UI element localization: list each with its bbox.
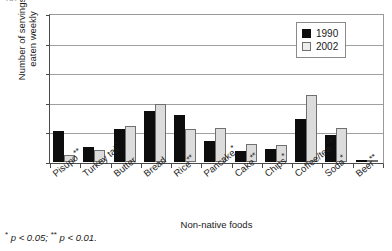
x-tick-mark-4 bbox=[171, 164, 172, 168]
bar-group-rice bbox=[172, 16, 202, 162]
legend-label-2002: 2002 bbox=[316, 41, 338, 52]
bar-group-chips bbox=[263, 16, 293, 162]
bar-group-pisupo bbox=[51, 16, 81, 162]
x-tick-mark-5 bbox=[201, 164, 202, 168]
x-axis-title: Non-native foods bbox=[49, 219, 384, 230]
x-tick-mark-1 bbox=[80, 164, 81, 168]
y-axis-title-line-1: Number of servings bbox=[16, 0, 27, 97]
bar-group-bread bbox=[142, 16, 172, 162]
y-tick-mark-25 bbox=[46, 15, 50, 16]
bar-group-turkey-tail bbox=[81, 16, 111, 162]
bar-group-beer bbox=[354, 16, 384, 162]
footnote-text-two: p < 0.01. bbox=[57, 232, 97, 243]
legend-item-2002: 2002 bbox=[302, 40, 338, 53]
x-tick-mark-6 bbox=[232, 164, 233, 168]
bar-1990-rice bbox=[174, 115, 185, 162]
x-tick-mark-3 bbox=[141, 164, 142, 168]
x-tick-mark-0 bbox=[50, 164, 51, 168]
y-tick-mark-20 bbox=[46, 45, 50, 46]
x-tick-mark-8 bbox=[292, 164, 293, 168]
bar-1990-bread bbox=[144, 111, 155, 162]
y-axis-title-line-2: eaten weekly bbox=[27, 0, 38, 97]
legend-swatch-1990 bbox=[302, 29, 311, 38]
y-axis-title: Number of servings eaten weekly bbox=[16, 0, 38, 97]
x-tick-mark-10 bbox=[353, 164, 354, 168]
x-tick-mark-2 bbox=[111, 164, 112, 168]
bar-1990-coffee-tea bbox=[295, 119, 306, 162]
x-tick-mark-9 bbox=[322, 164, 323, 168]
x-tick-mark-7 bbox=[262, 164, 263, 168]
bar-group-pancake bbox=[202, 16, 232, 162]
y-tick-mark-10 bbox=[46, 104, 50, 105]
bar-1990-pisupo bbox=[53, 131, 64, 162]
y-tick-mark-15 bbox=[46, 74, 50, 75]
legend-label-1990: 1990 bbox=[316, 28, 338, 39]
x-tick-mark-end bbox=[383, 164, 384, 168]
bar-chart: Number of servings eaten weekly 05101520… bbox=[0, 0, 392, 251]
footnote-text-one: p < 0.05; bbox=[8, 232, 51, 243]
significance-footnote: * p < 0.05; ** p < 0.01. bbox=[5, 232, 97, 243]
bar-group-cake bbox=[233, 16, 263, 162]
legend-item-1990: 1990 bbox=[302, 27, 338, 40]
y-tick-mark-5 bbox=[46, 133, 50, 134]
chart-legend: 1990 2002 bbox=[296, 22, 346, 58]
legend-swatch-2002 bbox=[302, 42, 311, 51]
